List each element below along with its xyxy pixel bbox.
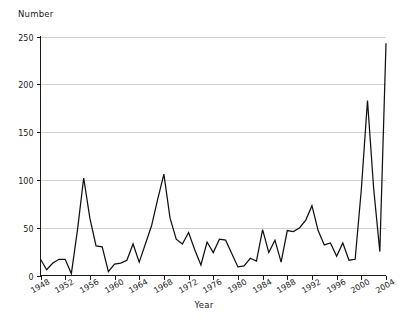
y-tick-label-50: 50 xyxy=(23,225,33,234)
x-axis-title: Year xyxy=(194,300,214,310)
y-axis-title: Number xyxy=(18,9,54,19)
y-tick-label-100: 100 xyxy=(18,177,33,186)
chart-background xyxy=(0,0,410,321)
line-chart: Number 050100150200250 19481952195619601… xyxy=(0,0,410,321)
y-tick-label-250: 250 xyxy=(18,34,33,43)
y-tick-label-150: 150 xyxy=(18,129,33,138)
y-tick-label-200: 200 xyxy=(18,81,33,90)
chart-figure: Number 050100150200250 19481952195619601… xyxy=(0,0,410,321)
y-tick-label-0: 0 xyxy=(28,273,33,282)
